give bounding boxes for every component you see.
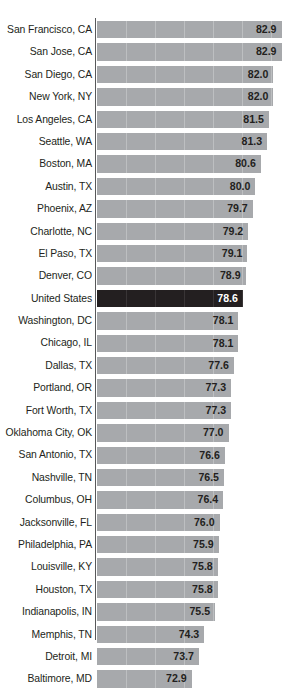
bar-row: Indianapolis, IN75.5 bbox=[0, 601, 286, 623]
gridline bbox=[155, 379, 156, 396]
bar-value-label: 81.3 bbox=[242, 133, 263, 150]
bar-row: San Jose, CA82.9 bbox=[0, 41, 286, 63]
bar-value-label: 78.9 bbox=[220, 267, 241, 284]
gridline bbox=[184, 21, 185, 38]
category-label: Austin, TX bbox=[45, 176, 92, 198]
bar: 82.0 bbox=[97, 88, 274, 105]
gridline bbox=[242, 290, 243, 307]
bar: 77.3 bbox=[97, 402, 232, 419]
bar: 75.9 bbox=[97, 536, 219, 553]
bar-row: El Paso, TX79.1 bbox=[0, 243, 286, 265]
category-label: Los Angeles, CA bbox=[17, 109, 92, 131]
bar-wrapper: 79.2 bbox=[97, 223, 249, 240]
bar-wrapper: 80.0 bbox=[97, 178, 256, 195]
bar: 72.9 bbox=[97, 670, 192, 687]
gridline bbox=[126, 379, 127, 396]
bar-value-label: 77.3 bbox=[206, 402, 227, 419]
bar: 75.5 bbox=[97, 603, 216, 620]
bar-row: Portland, OR77.3 bbox=[0, 377, 286, 399]
gridline bbox=[155, 402, 156, 419]
category-label: San Jose, CA bbox=[30, 41, 92, 63]
gridline bbox=[155, 469, 156, 486]
gridline bbox=[184, 357, 185, 374]
category-label: Columbus, OH bbox=[25, 489, 92, 511]
gridline bbox=[271, 88, 272, 105]
gridline bbox=[155, 670, 156, 687]
gridline bbox=[155, 267, 156, 284]
bar: 78.1 bbox=[97, 335, 239, 352]
bar-value-label: 76.4 bbox=[198, 491, 219, 508]
bar-wrapper: 82.0 bbox=[97, 88, 274, 105]
gridline bbox=[155, 245, 156, 262]
category-label: Indianapolis, IN bbox=[22, 601, 92, 623]
gridline bbox=[242, 66, 243, 83]
bar: 77.6 bbox=[97, 357, 234, 374]
bar-value-label: 78.1 bbox=[213, 312, 234, 329]
bar-value-label: 81.5 bbox=[243, 111, 264, 128]
gridline bbox=[126, 335, 127, 352]
category-label: Washington, DC bbox=[18, 310, 92, 332]
gridline bbox=[126, 469, 127, 486]
bar-wrapper: 81.3 bbox=[97, 133, 268, 150]
gridline bbox=[155, 200, 156, 217]
bar-wrapper: 77.0 bbox=[97, 424, 229, 441]
gridline bbox=[126, 155, 127, 172]
bar-wrapper: 75.8 bbox=[97, 581, 218, 598]
category-label: Memphis, TN bbox=[32, 624, 93, 646]
gridline bbox=[126, 111, 127, 128]
bar-wrapper: 75.5 bbox=[97, 603, 216, 620]
gridline bbox=[213, 290, 214, 307]
gridline bbox=[155, 312, 156, 329]
gridline bbox=[126, 66, 127, 83]
category-label: Jacksonville, FL bbox=[20, 512, 92, 534]
gridline bbox=[213, 223, 214, 240]
bar-wrapper: 78.9 bbox=[97, 267, 246, 284]
gridline bbox=[126, 357, 127, 374]
bar-wrapper: 76.6 bbox=[97, 447, 225, 464]
bar-value-label: 74.3 bbox=[179, 626, 200, 643]
gridline bbox=[126, 626, 127, 643]
category-label: Denver, CO bbox=[39, 265, 92, 287]
bar-wrapper: 81.5 bbox=[97, 111, 269, 128]
bar-row: Louisville, KY75.8 bbox=[0, 556, 286, 578]
gridline bbox=[184, 469, 185, 486]
bar-value-label: 77.3 bbox=[206, 379, 227, 396]
bar-value-label: 75.8 bbox=[192, 558, 213, 575]
bar-value-label: 78.1 bbox=[213, 335, 234, 352]
gridline bbox=[184, 603, 185, 620]
bar-row: Jacksonville, FL76.0 bbox=[0, 512, 286, 534]
gridline bbox=[213, 43, 214, 60]
gridline bbox=[126, 200, 127, 217]
bar-wrapper: 78.6 bbox=[97, 290, 243, 307]
bar-row: Boston, MA80.6 bbox=[0, 153, 286, 175]
gridline bbox=[126, 223, 127, 240]
bar: 75.8 bbox=[97, 581, 218, 598]
gridline bbox=[126, 447, 127, 464]
bar-wrapper: 82.9 bbox=[97, 21, 282, 38]
bar: 76.6 bbox=[97, 447, 225, 464]
category-label: Nashville, TN bbox=[32, 467, 92, 489]
gridline bbox=[126, 491, 127, 508]
bar-row: United States78.6 bbox=[0, 288, 286, 310]
bar-wrapper: 78.1 bbox=[97, 335, 239, 352]
gridline bbox=[184, 111, 185, 128]
bar-value-label: 78.6 bbox=[217, 290, 238, 307]
gridline bbox=[155, 133, 156, 150]
bar: 80.0 bbox=[97, 178, 256, 195]
gridline bbox=[126, 424, 127, 441]
bar: 76.0 bbox=[97, 514, 220, 531]
gridline bbox=[155, 111, 156, 128]
bar-row: New York, NY82.0 bbox=[0, 86, 286, 108]
gridline bbox=[155, 155, 156, 172]
gridline bbox=[155, 88, 156, 105]
bar-wrapper: 82.9 bbox=[97, 43, 282, 60]
bar-value-label: 73.7 bbox=[173, 648, 194, 665]
gridline bbox=[213, 21, 214, 38]
bar-row: Austin, TX80.0 bbox=[0, 176, 286, 198]
bar-row: Phoenix, AZ79.7 bbox=[0, 198, 286, 220]
bar-row: Baltimore, MD72.9 bbox=[0, 668, 286, 690]
gridline bbox=[184, 514, 185, 531]
gridline bbox=[184, 312, 185, 329]
bar-value-label: 76.0 bbox=[194, 514, 215, 531]
gridline bbox=[213, 155, 214, 172]
